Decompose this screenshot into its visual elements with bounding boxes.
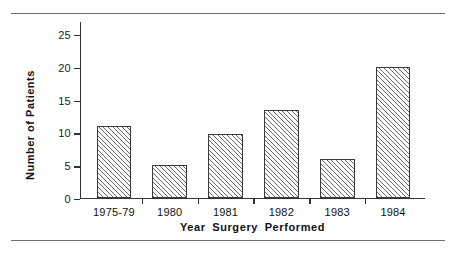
x-tick-label: 1981 — [213, 206, 238, 218]
y-tick-mark — [74, 133, 80, 134]
y-tick-mark — [74, 166, 80, 167]
x-tick-mark — [253, 199, 254, 204]
bar — [152, 165, 187, 198]
x-tick-label: 1980 — [157, 206, 182, 218]
plot-area: 0510152025 1975-7919801981198219831984 — [80, 22, 425, 199]
y-tick-label: 15 — [58, 95, 71, 107]
x-tick-mark — [309, 199, 310, 204]
y-tick-label: 0 — [65, 193, 71, 205]
y-tick-label: 10 — [58, 127, 71, 139]
y-tick-mark — [74, 35, 80, 36]
y-axis-line — [80, 22, 81, 199]
x-tick-mark — [198, 199, 199, 204]
y-tick-mark — [74, 101, 80, 102]
y-axis-title: Number of Patients — [24, 70, 36, 180]
x-axis-title: Year Surgery Performed — [80, 221, 425, 233]
x-tick-label: 1984 — [380, 206, 405, 218]
bar — [264, 110, 299, 199]
bar — [376, 67, 411, 198]
x-tick-mark — [365, 199, 366, 204]
bar — [320, 159, 355, 198]
x-tick-label: 1982 — [269, 206, 294, 218]
y-tick-label: 5 — [65, 160, 71, 172]
bar — [97, 126, 132, 198]
y-tick-label: 20 — [58, 62, 71, 74]
y-tick-label: 25 — [58, 29, 71, 41]
bar — [208, 134, 243, 198]
y-tick-mark — [74, 68, 80, 69]
x-tick-label: 1975-79 — [93, 206, 135, 218]
x-tick-label: 1983 — [325, 206, 350, 218]
figure-bottom-rule — [11, 240, 445, 241]
y-tick-mark — [74, 199, 80, 200]
bar-chart-figure: 0510152025 1975-7919801981198219831984 Y… — [0, 0, 455, 255]
figure-top-rule — [11, 13, 445, 14]
x-tick-mark — [142, 199, 143, 204]
